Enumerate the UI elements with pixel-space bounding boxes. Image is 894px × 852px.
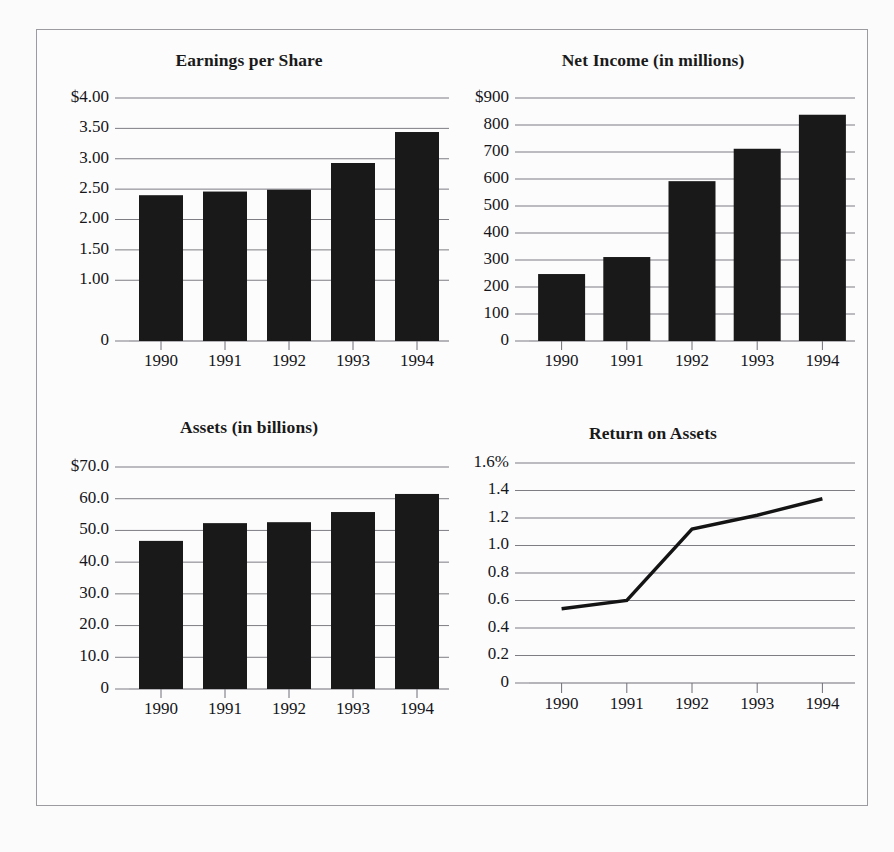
bar [538,274,585,341]
x-axis-tick-label: 1994 [400,351,435,370]
x-axis-tick-label: 1993 [336,699,370,718]
bar [139,195,183,341]
y-axis-tick-label: 700 [484,141,510,160]
y-axis-tick-label: 2.50 [79,178,109,197]
y-axis-tick-label: 20.0 [79,614,109,633]
x-axis-tick-label: 1993 [740,351,774,370]
chart-panel-assets: Assets (in billions) $70.060.050.040.030… [45,411,453,791]
y-axis-tick-label: 1.4 [488,479,510,498]
y-axis-tick-label: 0 [501,330,510,349]
y-axis-tick-label: 600 [484,168,510,187]
bar [395,132,439,341]
bar [139,541,183,689]
x-axis-tick-label: 1994 [805,351,840,370]
y-axis-tick-label: 0.6 [488,589,509,608]
bar [203,523,247,689]
y-axis-tick-label: 30.0 [79,583,109,602]
bar [734,149,781,341]
data-series-line [562,499,823,609]
x-axis-tick-label: 1992 [675,351,709,370]
y-axis-tick-label: 500 [484,195,510,214]
x-axis-tick-label: 1990 [144,351,178,370]
y-axis-tick-label: 1.6% [474,452,509,471]
x-axis-tick-label: 1991 [208,351,242,370]
x-axis-tick-label: 1992 [272,699,306,718]
y-axis-tick-label: 200 [484,276,510,295]
plot-area-earnings-per-share: $4.003.503.002.502.001.501.0001990199119… [45,36,453,411]
y-axis-tick-label: $4.00 [71,87,109,106]
plot-area-return-on-assets: 1.6%1.41.21.00.80.60.40.2019901991199219… [445,411,861,791]
y-axis-tick-label: 60.0 [79,488,109,507]
y-axis-tick-label: 50.0 [79,519,109,538]
bar [603,257,650,341]
x-axis-tick-label: 1992 [675,694,709,713]
y-axis-tick-label: 800 [484,114,510,133]
bar [267,190,311,341]
chart-panel-net-income: Net Income (in millions) $90080070060050… [445,36,861,411]
x-axis-tick-label: 1993 [740,694,774,713]
x-axis-tick-label: 1992 [272,351,306,370]
figure-frame: Earnings per Share $4.003.503.002.502.00… [36,29,868,806]
x-axis-tick-label: 1990 [144,699,178,718]
y-axis-tick-label: $70.0 [71,456,109,475]
bar [669,181,716,341]
x-axis-tick-label: 1990 [545,351,579,370]
x-axis-tick-label: 1990 [545,694,579,713]
y-axis-tick-label: 2.00 [79,208,109,227]
bar [331,163,375,341]
y-axis-tick-label: 400 [484,222,510,241]
y-axis-tick-label: 3.00 [79,148,109,167]
bar [203,192,247,341]
y-axis-tick-label: 0.8 [488,562,509,581]
x-axis-tick-label: 1993 [336,351,370,370]
bar [799,115,846,341]
y-axis-tick-label: 0 [101,330,110,349]
chart-panel-earnings-per-share: Earnings per Share $4.003.503.002.502.00… [45,36,453,411]
y-axis-tick-label: $900 [475,87,509,106]
y-axis-tick-label: 1.0 [488,534,509,553]
plot-area-assets: $70.060.050.040.030.020.010.001990199119… [45,411,453,791]
y-axis-tick-label: 100 [484,303,510,322]
plot-area-net-income: $900800700600500400300200100019901991199… [445,36,861,411]
bar [267,522,311,689]
y-axis-tick-label: 1.2 [488,507,509,526]
bar [331,512,375,689]
x-axis-tick-label: 1991 [208,699,242,718]
y-axis-tick-label: 3.50 [79,117,109,136]
y-axis-tick-label: 0 [501,672,510,691]
y-axis-tick-label: 10.0 [79,646,109,665]
bar [395,494,439,689]
y-axis-tick-label: 0.4 [488,617,510,636]
x-axis-tick-label: 1991 [610,351,644,370]
x-axis-tick-label: 1991 [610,694,644,713]
y-axis-tick-label: 0 [101,678,110,697]
y-axis-tick-label: 40.0 [79,551,109,570]
y-axis-tick-label: 300 [484,249,510,268]
y-axis-tick-label: 1.50 [79,239,109,258]
y-axis-tick-label: 0.2 [488,644,509,663]
x-axis-tick-label: 1994 [805,694,840,713]
y-axis-tick-label: 1.00 [79,269,109,288]
x-axis-tick-label: 1994 [400,699,435,718]
chart-panel-return-on-assets: Return on Assets 1.6%1.41.21.00.80.60.40… [445,411,861,791]
